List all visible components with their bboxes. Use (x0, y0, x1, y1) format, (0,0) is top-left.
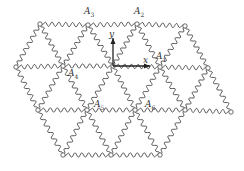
spring-edge (63, 110, 87, 155)
spring-edge (185, 68, 208, 110)
spring-edge (135, 108, 185, 112)
spring-edge (87, 110, 111, 155)
label-a1: A1 (156, 52, 166, 63)
lattice-node (85, 108, 89, 112)
lattice-node (14, 65, 18, 69)
spring-edge (160, 65, 208, 70)
lattice-node (135, 22, 139, 26)
spring-edge (38, 110, 63, 155)
spring-edge (185, 108, 231, 113)
spring-lattice (0, 0, 244, 171)
spring-edge (16, 24, 40, 67)
label-a6: A6 (145, 100, 155, 111)
lattice-node (206, 66, 210, 70)
spring-edge (40, 22, 88, 27)
lattice-node (36, 108, 40, 112)
lattice-node (229, 110, 233, 114)
spring-edge (63, 153, 111, 157)
spring-edge (137, 22, 185, 27)
spring-edge (63, 25, 88, 66)
lattice-node (109, 153, 113, 157)
lattice-node (133, 108, 137, 112)
spring-edge (88, 22, 137, 27)
label-a5: A5 (94, 100, 104, 111)
lattice-node (158, 153, 162, 157)
lattice-node (183, 24, 187, 28)
y-axis-label: y (109, 30, 114, 39)
spring-edge (135, 110, 160, 155)
lattice-node (86, 23, 90, 27)
spring-edge (113, 24, 137, 66)
lattice-node (38, 22, 42, 26)
spring-edge (38, 108, 87, 112)
spring-edge (40, 24, 63, 66)
spring-edge (208, 68, 231, 112)
lattice-node (61, 64, 65, 68)
spring-edge (113, 66, 135, 110)
lattice-diagram: A1 A2 A3 A4 A5 A6 x y (0, 0, 244, 171)
spring-edge (111, 153, 160, 157)
x-axis-label: x (143, 56, 148, 65)
label-a2: A2 (134, 7, 144, 18)
lattice-node (158, 65, 162, 69)
spring-edge (160, 110, 185, 155)
label-a4: A4 (68, 69, 78, 80)
lattice-node (61, 153, 65, 157)
spring-edge (38, 66, 63, 110)
spring-edge (16, 64, 63, 69)
spring-edge (111, 110, 135, 155)
spring-edge (16, 67, 38, 110)
label-a3: A3 (84, 7, 94, 18)
lattice-node (183, 108, 187, 112)
spring-edge (160, 67, 185, 110)
spring-edge (185, 26, 208, 68)
